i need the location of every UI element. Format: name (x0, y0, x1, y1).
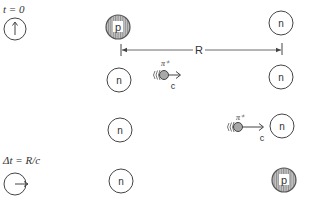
motion-lines-icon (154, 71, 156, 79)
nucleon-label: p (281, 174, 287, 186)
pion-particle-icon (234, 123, 243, 132)
neutron-left-4: n (109, 169, 133, 193)
speed-label: c (171, 81, 176, 91)
distance-dimension: R (121, 43, 282, 56)
left-nucleon-column: p n n n (106, 15, 133, 193)
neutron-right-1: n (269, 11, 293, 35)
clock-start: t = 0 (3, 3, 26, 40)
nucleon-label: n (278, 72, 284, 83)
speed-label: c (260, 133, 265, 143)
neutron-right-2: n (269, 65, 293, 89)
pion-1: π⁺ c (154, 59, 181, 91)
nucleon-label: n (279, 121, 285, 132)
pion-particle-icon (160, 71, 169, 80)
motion-lines-icon (228, 123, 230, 131)
proton-left-top: p (106, 15, 130, 39)
arrowhead-right-icon (276, 48, 281, 52)
pion-2: π⁺ c (228, 113, 265, 143)
right-nucleon-column: n n n p (269, 11, 296, 192)
clock-end-label: Δt = R/c (2, 154, 40, 166)
pion-exchange-diagram: t = 0 Δt = R/c p n n n (0, 0, 314, 207)
clock-start-label: t = 0 (3, 3, 25, 15)
pion-label: π⁺ (161, 59, 170, 68)
neutron-right-3: n (270, 114, 294, 138)
nucleon-label: n (116, 75, 122, 86)
proton-right-bottom: p (272, 168, 296, 192)
arrowhead-left-icon (122, 48, 127, 52)
pion-label: π⁺ (236, 113, 245, 122)
nucleon-label: p (115, 21, 121, 33)
nucleon-label: n (117, 125, 123, 136)
nucleon-label: n (118, 176, 124, 187)
distance-label: R (195, 44, 203, 56)
clock-end: Δt = R/c (2, 154, 40, 195)
nucleon-label: n (278, 18, 284, 29)
neutron-left-2: n (107, 68, 131, 92)
neutron-left-3: n (108, 118, 132, 142)
